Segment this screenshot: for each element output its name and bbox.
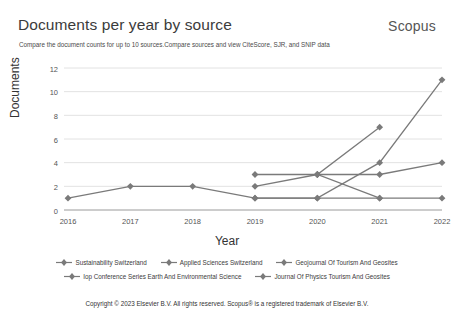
series-line (255, 127, 380, 174)
legend-marker-icon (276, 258, 292, 267)
x-axis-label: Year (0, 234, 454, 248)
legend-marker-icon (161, 258, 177, 267)
data-point-marker[interactable] (189, 183, 196, 190)
legend-item-geojournal-of-tourism-and-geosites[interactable]: Geojournal Of Tourism And Geosites (276, 258, 397, 267)
data-point-marker[interactable] (439, 195, 446, 202)
x-tick-label: 2016 (60, 217, 77, 226)
x-tick-label: 2020 (309, 217, 326, 226)
page-title: Documents per year by source (18, 16, 232, 34)
x-tick-label: 2021 (371, 217, 388, 226)
line-chart-svg: 0246810122016201720182019202020212022 (0, 58, 454, 238)
legend-label: Iop Conference Series Earth And Environm… (83, 273, 241, 280)
y-tick-label: 10 (50, 88, 58, 97)
data-point-marker[interactable] (439, 159, 446, 166)
y-tick-label: 12 (50, 65, 58, 74)
legend-row-2: Iop Conference Series Earth And Environm… (0, 272, 454, 281)
data-point-marker[interactable] (314, 195, 321, 202)
legend-label: Applied Sciences Switzerland (180, 259, 263, 266)
legend-item-iop-conference-series-earth-and-environmental-science[interactable]: Iop Conference Series Earth And Environm… (64, 272, 241, 281)
chart-legend: Sustainability Switzerland Applied Scien… (0, 258, 454, 286)
legend-item-sustainability-switzerland[interactable]: Sustainability Switzerland (56, 258, 146, 267)
page-subtitle: Compare the document counts for up to 10… (19, 41, 330, 48)
x-tick-label: 2019 (247, 217, 264, 226)
legend-row-1: Sustainability Switzerland Applied Scien… (0, 258, 454, 267)
copyright-footer: Copyright © 2023 Elsevier B.V. All right… (0, 300, 454, 307)
data-point-marker[interactable] (252, 195, 259, 202)
y-tick-label: 8 (54, 112, 58, 121)
y-tick-label: 0 (54, 207, 58, 216)
data-point-marker[interactable] (127, 183, 134, 190)
data-point-marker[interactable] (376, 195, 383, 202)
data-point-marker[interactable] (65, 195, 72, 202)
legend-item-journal-of-physics-tourism-and-geosites[interactable]: Journal Of Physics Tourism And Geosites (255, 272, 389, 281)
data-point-marker[interactable] (252, 183, 259, 190)
legend-label: Sustainability Switzerland (75, 259, 146, 266)
x-tick-label: 2022 (434, 217, 451, 226)
legend-marker-icon (255, 272, 271, 281)
data-point-marker[interactable] (252, 171, 259, 178)
scopus-brand-logo: Scopus (388, 18, 436, 34)
x-tick-label: 2018 (184, 217, 201, 226)
legend-marker-icon (56, 258, 72, 267)
legend-item-applied-sciences-switzerland[interactable]: Applied Sciences Switzerland (161, 258, 263, 267)
y-tick-label: 4 (54, 159, 58, 168)
legend-label: Geojournal Of Tourism And Geosites (295, 259, 397, 266)
data-point-marker[interactable] (376, 171, 383, 178)
y-tick-label: 2 (54, 183, 58, 192)
y-tick-label: 6 (54, 136, 58, 145)
legend-marker-icon (64, 272, 80, 281)
chart-page: Documents per year by source Scopus Comp… (0, 0, 454, 317)
chart-plot-area: 0246810122016201720182019202020212022 (0, 58, 454, 238)
x-tick-label: 2017 (122, 217, 139, 226)
legend-label: Journal Of Physics Tourism And Geosites (274, 273, 389, 280)
